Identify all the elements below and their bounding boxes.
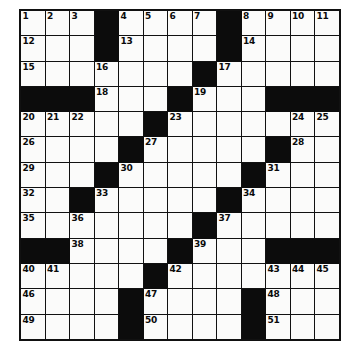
- crossword-cell[interactable]: [217, 86, 242, 111]
- crossword-cell[interactable]: [119, 188, 144, 213]
- crossword-cell[interactable]: 38: [70, 238, 95, 263]
- crossword-cell[interactable]: [168, 137, 193, 162]
- crossword-cell[interactable]: [315, 36, 340, 61]
- crossword-cell[interactable]: 1: [20, 10, 45, 36]
- crossword-cell[interactable]: 50: [143, 314, 168, 340]
- crossword-cell[interactable]: 10: [290, 10, 315, 36]
- crossword-cell[interactable]: 5: [143, 10, 168, 36]
- crossword-cell[interactable]: [266, 61, 291, 86]
- crossword-cell[interactable]: 35: [20, 213, 45, 238]
- crossword-cell[interactable]: [315, 289, 340, 314]
- crossword-cell[interactable]: 12: [20, 36, 45, 61]
- crossword-cell[interactable]: [241, 112, 266, 137]
- crossword-cell[interactable]: [45, 61, 70, 86]
- crossword-cell[interactable]: [70, 263, 95, 288]
- crossword-cell[interactable]: [192, 36, 217, 61]
- crossword-cell[interactable]: [143, 238, 168, 263]
- crossword-cell[interactable]: [94, 289, 119, 314]
- crossword-cell[interactable]: [94, 112, 119, 137]
- crossword-cell[interactable]: 25: [315, 112, 340, 137]
- crossword-cell[interactable]: 14: [241, 36, 266, 61]
- crossword-cell[interactable]: [143, 86, 168, 111]
- crossword-cell[interactable]: [192, 289, 217, 314]
- crossword-cell[interactable]: [241, 263, 266, 288]
- crossword-cell[interactable]: [315, 61, 340, 86]
- crossword-cell[interactable]: 41: [45, 263, 70, 288]
- crossword-cell[interactable]: [45, 36, 70, 61]
- crossword-cell[interactable]: [168, 162, 193, 187]
- crossword-cell[interactable]: [290, 36, 315, 61]
- crossword-cell[interactable]: 42: [168, 263, 193, 288]
- crossword-cell[interactable]: 6: [168, 10, 193, 36]
- crossword-cell[interactable]: [315, 137, 340, 162]
- crossword-cell[interactable]: 18: [94, 86, 119, 111]
- crossword-cell[interactable]: [290, 213, 315, 238]
- crossword-cell[interactable]: [45, 289, 70, 314]
- crossword-cell[interactable]: [119, 213, 144, 238]
- crossword-cell[interactable]: [266, 36, 291, 61]
- crossword-cell[interactable]: [94, 137, 119, 162]
- crossword-cell[interactable]: [119, 238, 144, 263]
- crossword-cell[interactable]: [70, 36, 95, 61]
- crossword-cell[interactable]: 46: [20, 289, 45, 314]
- crossword-cell[interactable]: [70, 162, 95, 187]
- crossword-cell[interactable]: 22: [70, 112, 95, 137]
- crossword-cell[interactable]: [192, 188, 217, 213]
- crossword-cell[interactable]: 2: [45, 10, 70, 36]
- crossword-cell[interactable]: 3: [70, 10, 95, 36]
- crossword-cell[interactable]: [290, 61, 315, 86]
- crossword-cell[interactable]: [70, 289, 95, 314]
- crossword-cell[interactable]: [217, 289, 242, 314]
- crossword-cell[interactable]: 19: [192, 86, 217, 111]
- crossword-cell[interactable]: 15: [20, 61, 45, 86]
- crossword-cell[interactable]: [94, 314, 119, 340]
- crossword-cell[interactable]: [168, 289, 193, 314]
- crossword-cell[interactable]: [168, 36, 193, 61]
- crossword-cell[interactable]: [119, 112, 144, 137]
- crossword-cell[interactable]: [266, 112, 291, 137]
- crossword-cell[interactable]: [290, 162, 315, 187]
- crossword-cell[interactable]: [119, 86, 144, 111]
- crossword-cell[interactable]: 16: [94, 61, 119, 86]
- crossword-cell[interactable]: [217, 162, 242, 187]
- crossword-cell[interactable]: [45, 137, 70, 162]
- crossword-cell[interactable]: [217, 112, 242, 137]
- crossword-cell[interactable]: [241, 238, 266, 263]
- crossword-cell[interactable]: [315, 162, 340, 187]
- crossword-cell[interactable]: [266, 188, 291, 213]
- crossword-cell[interactable]: [45, 213, 70, 238]
- crossword-cell[interactable]: [143, 36, 168, 61]
- crossword-cell[interactable]: [119, 263, 144, 288]
- crossword-cell[interactable]: [290, 289, 315, 314]
- crossword-cell[interactable]: [143, 188, 168, 213]
- crossword-cell[interactable]: 44: [290, 263, 315, 288]
- crossword-cell[interactable]: [70, 137, 95, 162]
- crossword-cell[interactable]: [168, 213, 193, 238]
- crossword-cell[interactable]: [315, 213, 340, 238]
- crossword-cell[interactable]: 17: [217, 61, 242, 86]
- crossword-cell[interactable]: [217, 314, 242, 340]
- crossword-cell[interactable]: [315, 314, 340, 340]
- crossword-cell[interactable]: [241, 86, 266, 111]
- crossword-cell[interactable]: [192, 137, 217, 162]
- crossword-cell[interactable]: [94, 263, 119, 288]
- crossword-cell[interactable]: 40: [20, 263, 45, 288]
- crossword-cell[interactable]: [94, 238, 119, 263]
- crossword-cell[interactable]: 43: [266, 263, 291, 288]
- crossword-cell[interactable]: 37: [217, 213, 242, 238]
- crossword-cell[interactable]: 30: [119, 162, 144, 187]
- crossword-cell[interactable]: [143, 213, 168, 238]
- crossword-cell[interactable]: [119, 61, 144, 86]
- crossword-cell[interactable]: 27: [143, 137, 168, 162]
- crossword-cell[interactable]: 49: [20, 314, 45, 340]
- crossword-cell[interactable]: 36: [70, 213, 95, 238]
- crossword-cell[interactable]: [45, 314, 70, 340]
- crossword-cell[interactable]: 47: [143, 289, 168, 314]
- crossword-cell[interactable]: 39: [192, 238, 217, 263]
- crossword-cell[interactable]: 34: [241, 188, 266, 213]
- crossword-cell[interactable]: [192, 162, 217, 187]
- crossword-cell[interactable]: 20: [20, 112, 45, 137]
- crossword-cell[interactable]: [45, 162, 70, 187]
- crossword-cell[interactable]: 51: [266, 314, 291, 340]
- crossword-cell[interactable]: [241, 137, 266, 162]
